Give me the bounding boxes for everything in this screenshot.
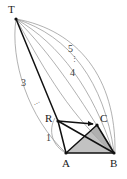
figure-canvas [0,0,127,179]
arc-label-3: 3 [21,78,26,88]
vertex-dot-R [56,119,59,122]
vertex-dot-T [14,17,17,20]
arc-label-1: 1 [46,133,51,143]
vertex-label-R: R [45,113,52,124]
vertex-dot-B [112,151,115,154]
vertex-label-C: C [100,113,107,124]
ellipsis-vertical-icon: ⋮ [71,56,78,63]
vertex-label-B: B [110,158,117,169]
vertex-dot-C [95,123,98,126]
arc-label-5: 5 [68,44,73,54]
arc-label-4: 4 [70,68,75,78]
geometry-figure: T R C A B 5 4 3 1 ⋮ ⋯ [0,0,127,179]
vertex-label-A: A [62,158,70,169]
vertex-label-T: T [8,4,15,15]
vertex-dot-A [64,151,67,154]
